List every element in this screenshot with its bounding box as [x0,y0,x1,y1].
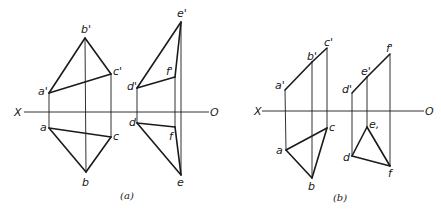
edge-c-prime-a-prime [49,74,111,93]
point-label-a: a [40,121,47,134]
point-label-a-prime: a' [38,85,48,98]
point-label-a: a [276,144,283,157]
point-label-d-prime: d' [342,83,352,96]
point-label-a-prime: a' [275,79,285,92]
edge-b-c [86,137,111,172]
point-label-b-prime: b' [307,50,317,63]
edge-a-prime-b-prime [285,62,312,90]
point-label-b: b [82,176,89,189]
edge-c-a [49,128,111,137]
projector-line-a-prime-a [285,90,286,150]
axis-x-label: X [13,106,22,119]
point-label-f-prime: f' [386,42,393,55]
edge-d-prime-e-prime [137,22,181,88]
point-label-e: e [177,176,184,189]
axis-o-label: O [210,106,219,119]
point-label-c: c [329,121,335,134]
point-label-b-prime: b' [81,23,91,36]
point-label-e-prime: e' [177,7,187,20]
point-label-b: b [308,180,315,193]
panel-a-diagram: XOb'c'a'acbe'f'd'dfe(a) [13,7,219,201]
orthographic-projection-figure: XOb'c'a'acbe'f'd'dfe(a) XOa'b'c'cabd'e'f… [0,0,441,216]
panel-caption: (b) [333,192,347,203]
edge-b-prime-c-prime [85,38,111,74]
point-label-d: d [343,151,351,164]
point-label-c-prime: c' [324,36,333,49]
edge-a-b [286,150,312,178]
point-label-e: e, [369,118,379,131]
point-label-d: d [129,116,137,129]
edge-d-e [137,123,181,175]
point-label-f: f [388,167,394,180]
edge-a-prime-b-prime [49,38,85,93]
point-label-c: c [113,130,119,143]
point-label-f: f [169,130,175,143]
point-label-d-prime: d' [127,80,137,93]
edge-d-prime-e-prime [352,77,367,93]
edge-d-e [352,127,367,156]
panel-b-diagram: XOa'b'c'cabd'e'f'e,df(b) [253,36,434,203]
point-label-f-prime: f' [166,65,173,78]
panel-caption: (a) [120,190,134,201]
axis-x-label: X [253,105,262,118]
edge-a-b [49,128,86,172]
edge-f-d [137,123,175,127]
point-label-e-prime: e' [361,65,371,78]
point-label-c-prime: c' [113,65,122,78]
projector-line-b-prime-b [85,38,86,172]
axis-o-label: O [425,105,434,118]
